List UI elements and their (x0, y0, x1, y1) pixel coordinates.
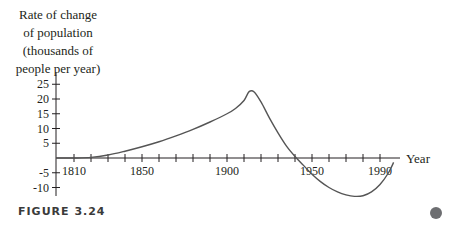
tick-label: 10 (37, 122, 49, 136)
tick-label: 20 (37, 92, 49, 106)
tick-label: 1900 (215, 164, 239, 178)
tick-label: -10 (33, 181, 49, 195)
tick-label: 1990 (368, 164, 392, 178)
tick-label: 1850 (130, 164, 154, 178)
tick-label: -5 (39, 166, 49, 180)
ticks: 252015105-5-1018101850190019501990 (33, 77, 392, 194)
tick-label: 5 (43, 136, 49, 150)
tick-label: 1810 (62, 164, 86, 178)
tick-label: 25 (37, 77, 49, 91)
x-axis-label: Year (406, 151, 431, 166)
figure-caption: FIGURE 3.24 (18, 205, 106, 218)
bullet-dot-icon (430, 207, 442, 219)
chart-plot: 252015105-5-1018101850190019501990 Year (0, 0, 453, 229)
tick-label: 15 (37, 107, 49, 121)
data-curve (56, 91, 394, 197)
